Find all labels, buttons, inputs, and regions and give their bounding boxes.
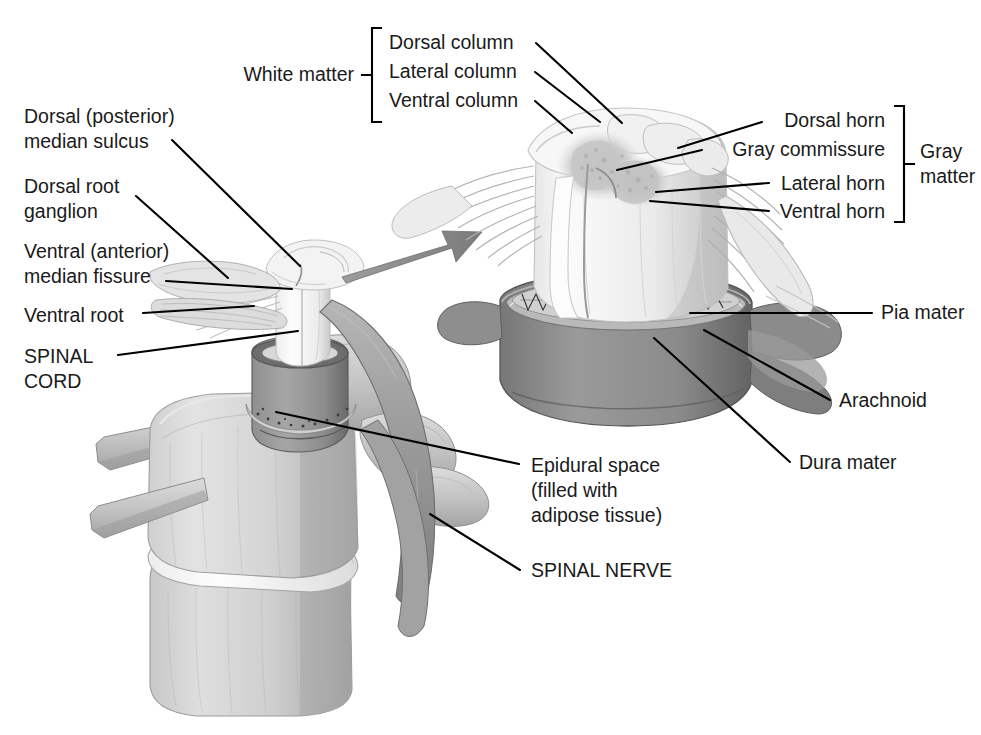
label-spinal-nerve: SPINAL NERVE: [531, 558, 672, 583]
magnification-arrow: [342, 231, 482, 283]
label-dorsal-column: Dorsal column: [389, 30, 514, 55]
label-ventral-root: Ventral root: [24, 303, 124, 328]
gray-matter-group-label-line2: matter: [920, 164, 975, 189]
leader-lateral-column: [535, 72, 600, 122]
white-matter-bracket: [362, 28, 381, 122]
label-arachnoid: Arachnoid: [839, 388, 927, 413]
label-epidural-space-line3: adipose tissue): [531, 503, 662, 528]
white-matter-group-label: White matter: [228, 62, 354, 87]
gray-matter-group-label-line1: Gray: [920, 139, 962, 164]
label-dorsal-median-sulcus-line2: median sulcus: [24, 129, 149, 154]
label-ventral-median-fissure-line2: median fissure: [24, 264, 151, 289]
nerve-root-bundle-left: [392, 186, 472, 238]
gray-matter-bracket: [895, 106, 914, 222]
label-lateral-column: Lateral column: [389, 59, 517, 84]
label-dorsal-horn: Dorsal horn: [700, 108, 885, 133]
label-dorsal-root-ganglion-line1: Dorsal root: [24, 174, 119, 199]
label-epidural-space-line2: (filled with: [531, 478, 618, 503]
label-gray-commissure: Gray commissure: [640, 137, 885, 162]
label-lateral-horn: Lateral horn: [700, 171, 885, 196]
label-spinal-cord-line2: CORD: [24, 369, 81, 394]
label-dorsal-median-sulcus-line1: Dorsal (posterior): [24, 104, 175, 129]
label-dorsal-root-ganglion-line2: ganglion: [24, 199, 98, 224]
label-ventral-horn: Ventral horn: [700, 199, 885, 224]
label-spinal-cord-line1: SPINAL: [24, 344, 93, 369]
ventral-root-left: [151, 299, 287, 330]
anatomy-figure: White matter Dorsal column Lateral colum…: [0, 0, 981, 735]
label-ventral-column: Ventral column: [389, 88, 518, 113]
label-ventral-median-fissure-line1: Ventral (anterior): [24, 239, 169, 264]
label-epidural-space-line1: Epidural space: [531, 453, 660, 478]
leader-dorsal-median-sulcus: [172, 140, 300, 266]
label-dura-mater: Dura mater: [799, 450, 897, 475]
label-pia-mater: Pia mater: [881, 300, 964, 325]
left-illustration: [90, 240, 489, 716]
